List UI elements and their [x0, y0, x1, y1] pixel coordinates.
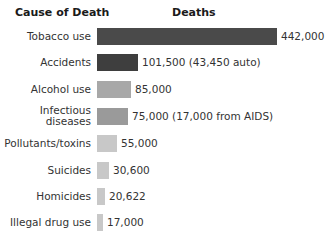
bar: [97, 28, 277, 45]
value-label: 17,000: [107, 210, 144, 234]
category-label: Infectious diseases: [40, 104, 91, 128]
category-label: Alcohol use: [31, 77, 91, 101]
bar-row: Pollutants/toxins55,000: [0, 131, 336, 155]
cause-column-header: Cause of Death: [15, 6, 109, 19]
bar-row: Suicides30,600: [0, 158, 336, 182]
value-label: 75,000 (17,000 from AIDS): [132, 104, 273, 128]
bar-row: Infectious diseases75,000 (17,000 from A…: [0, 104, 336, 128]
bar-row: Tobacco use442,000: [0, 24, 336, 48]
bar: [97, 162, 109, 179]
bar: [97, 108, 128, 125]
category-label: Suicides: [47, 158, 91, 182]
value-label: 85,000: [135, 77, 172, 101]
bar: [97, 54, 138, 71]
value-label: 442,000: [281, 24, 324, 48]
bar: [97, 81, 131, 98]
value-label: 101,500 (43,450 auto): [142, 50, 261, 74]
category-label: Accidents: [40, 50, 91, 74]
bar-row: Accidents101,500 (43,450 auto): [0, 50, 336, 74]
value-label: 20,622: [109, 184, 146, 208]
value-label: 55,000: [121, 131, 158, 155]
category-label: Pollutants/toxins: [4, 131, 91, 155]
category-label: Illegal drug use: [10, 210, 91, 234]
deaths-column-header: Deaths: [172, 6, 216, 19]
bar: [97, 214, 103, 231]
bar-row: Homicides20,622: [0, 184, 336, 208]
bar: [97, 135, 117, 152]
bar-row: Alcohol use85,000: [0, 77, 336, 101]
value-label: 30,600: [113, 158, 150, 182]
category-label: Tobacco use: [27, 24, 91, 48]
deaths-bar-chart: Cause of Death Deaths Tobacco use442,000…: [0, 0, 336, 243]
category-label: Homicides: [36, 184, 91, 208]
bar-row: Illegal drug use17,000: [0, 210, 336, 234]
bar: [97, 188, 105, 205]
